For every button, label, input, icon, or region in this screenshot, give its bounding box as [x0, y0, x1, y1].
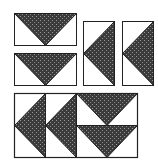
flying-geese-diagram — [0, 0, 158, 161]
flying-goose-unit-point-down — [77, 94, 138, 126]
flying-goose-unit-point-down — [15, 54, 77, 86]
flying-goose-unit-point-left — [46, 94, 77, 158]
assembled-block — [15, 94, 138, 158]
flying-goose-unit-point-left — [15, 94, 46, 158]
flying-goose-unit-point-left — [123, 22, 154, 86]
flying-goose-unit-point-down — [15, 14, 77, 46]
flying-goose-unit-point-left — [84, 22, 115, 86]
flying-goose-unit-point-down — [77, 126, 138, 158]
individual-units — [15, 14, 154, 86]
quilt-diagram-canvas — [0, 0, 158, 161]
